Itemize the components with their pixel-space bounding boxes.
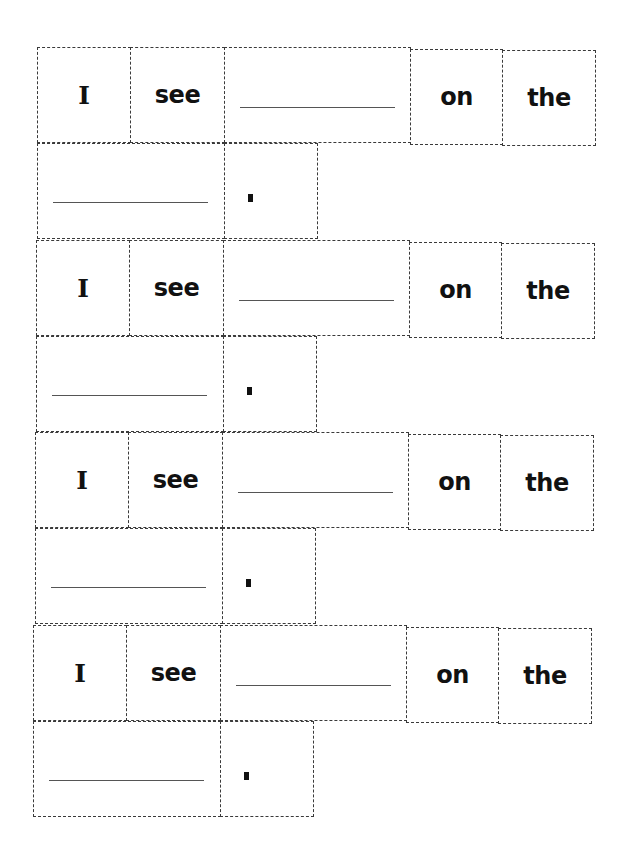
period-card[interactable] — [220, 721, 314, 817]
write-line — [51, 587, 206, 588]
period-card[interactable] — [223, 336, 317, 432]
write-line — [49, 780, 204, 781]
blank-card-object[interactable] — [220, 625, 407, 721]
worksheet-page: I see on the I see on — [0, 0, 631, 865]
word-see: see — [155, 81, 200, 109]
period-mark — [246, 579, 251, 587]
word-on: on — [439, 276, 472, 304]
word-card-on[interactable]: on — [406, 627, 499, 723]
blank-card-object[interactable] — [223, 240, 410, 336]
blank-card-place[interactable] — [33, 721, 221, 817]
blank-card-object[interactable] — [222, 432, 409, 528]
write-line — [238, 492, 393, 493]
period-card[interactable] — [222, 528, 316, 624]
word-card-see[interactable]: see — [129, 240, 224, 336]
word-the: the — [525, 469, 568, 497]
word-i: I — [78, 81, 90, 110]
word-see: see — [154, 274, 199, 302]
word-card-on[interactable]: on — [408, 434, 501, 530]
blank-card-place[interactable] — [35, 528, 223, 624]
word-card-i[interactable]: I — [36, 240, 130, 336]
blank-card-place[interactable] — [36, 336, 224, 432]
write-line — [52, 395, 207, 396]
word-i: I — [74, 659, 86, 688]
word-card-the[interactable]: the — [501, 243, 595, 339]
word-card-i[interactable]: I — [33, 625, 127, 721]
word-i: I — [76, 466, 88, 495]
period-mark — [244, 772, 249, 780]
word-see: see — [151, 659, 196, 687]
word-card-see[interactable]: see — [130, 47, 225, 143]
word-card-i[interactable]: I — [35, 432, 129, 528]
word-see: see — [153, 466, 198, 494]
blank-card-object[interactable] — [224, 47, 411, 143]
word-card-the[interactable]: the — [498, 628, 592, 724]
write-line — [240, 107, 395, 108]
word-on: on — [440, 83, 473, 111]
period-mark — [247, 387, 252, 395]
period-mark — [248, 194, 253, 202]
word-card-on[interactable]: on — [409, 242, 502, 338]
word-the: the — [527, 84, 570, 112]
word-on: on — [436, 661, 469, 689]
blank-card-place[interactable] — [37, 143, 225, 239]
word-on: on — [438, 468, 471, 496]
write-line — [236, 685, 391, 686]
word-card-see[interactable]: see — [128, 432, 223, 528]
word-card-see[interactable]: see — [126, 625, 221, 721]
write-line — [53, 202, 208, 203]
word-card-i[interactable]: I — [37, 47, 131, 143]
word-card-on[interactable]: on — [410, 49, 503, 145]
write-line — [239, 300, 394, 301]
word-i: I — [77, 274, 89, 303]
word-the: the — [523, 662, 566, 690]
word-card-the[interactable]: the — [502, 50, 596, 146]
period-card[interactable] — [224, 143, 318, 239]
word-the: the — [526, 277, 569, 305]
word-card-the[interactable]: the — [500, 435, 594, 531]
